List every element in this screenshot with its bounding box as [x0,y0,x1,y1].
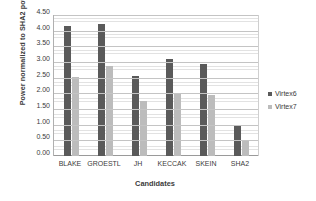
x-axis-tick-label: SHA2 [223,160,257,167]
y-axis-tick-labels: 0.000.501.001.502.002.503.003.504.004.50 [27,13,50,156]
major-gridline [54,93,258,94]
major-gridline [54,46,258,47]
legend-item[interactable]: Virtex6 [268,90,297,97]
y-axis-tick-label: 2.00 [27,86,50,93]
bar[interactable] [98,24,105,156]
y-axis-tick-label: 2.50 [27,70,50,77]
bars-layer [54,15,258,156]
legend: Virtex6Virtex7 [268,90,297,116]
bar[interactable] [166,59,173,156]
bar[interactable] [132,76,139,156]
legend-swatch-icon [268,105,272,109]
y-axis-tick-label: 3.00 [27,55,50,62]
major-gridline [54,62,258,63]
x-axis-tick-labels: BLAKEGROESTLJHKECCAKSKEINSHA2 [53,160,257,167]
legend-label: Virtex6 [275,90,297,97]
y-axis-tick-label: 4.00 [27,23,50,30]
major-gridline [54,125,258,126]
y-axis-tick-label: 4.50 [27,8,50,15]
bar-group [54,15,88,156]
major-gridline [54,15,258,16]
y-axis-title: Power normalized to SHA2 power [18,0,27,117]
major-gridline [54,140,258,141]
legend-swatch-icon [268,92,272,96]
legend-item[interactable]: Virtex7 [268,103,297,110]
bar[interactable] [72,77,79,156]
x-axis-tick-label: BLAKE [53,160,87,167]
x-axis-tick-label: KECCAK [155,160,189,167]
major-gridline [54,78,258,79]
x-axis-tick-label: JH [121,160,155,167]
bar-group [224,15,258,156]
y-axis-tick-label: 3.50 [27,39,50,46]
legend-label: Virtex7 [275,103,297,110]
major-gridline [54,31,258,32]
bar-group [88,15,122,156]
bar-group [122,15,156,156]
x-axis-title: Candidates [53,179,257,188]
bar[interactable] [106,66,113,156]
bar-group [156,15,190,156]
y-axis-tick-label: 0.50 [27,133,50,140]
bar-group [190,15,224,156]
bar[interactable] [242,140,249,156]
y-axis-tick-label: 1.50 [27,102,50,109]
plot-area [53,15,259,156]
major-gridline [54,109,258,110]
x-axis-tick-label: GROESTL [87,160,121,167]
y-axis-tick-label: 1.00 [27,117,50,124]
bar-chart: Power normalized to SHA2 power 0.000.501… [0,0,316,201]
x-axis-tick-label: SKEIN [189,160,223,167]
y-axis-tick-label: 0.00 [27,149,50,156]
